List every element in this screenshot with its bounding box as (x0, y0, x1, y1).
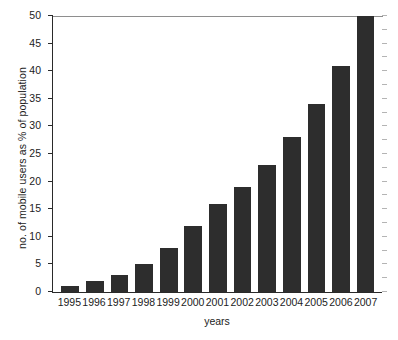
x-axis-tick-label: 2003 (255, 296, 280, 308)
right-axis-tick (382, 291, 387, 292)
right-axis-tick (382, 222, 387, 223)
plot-area: 05101520253035404550 (52, 16, 382, 293)
y-axis-tick-label: 25 (29, 148, 41, 159)
x-axis-tick-label: 2002 (230, 296, 255, 308)
bar-2006 (332, 66, 350, 292)
bar-slot (206, 16, 231, 292)
bar-2004 (283, 137, 301, 292)
x-axis-tick-label: 1995 (57, 296, 82, 308)
bar-chart: no. of mobile users as % of population 0… (0, 0, 398, 340)
right-axis-tick (382, 181, 387, 182)
x-axis-tick-label: 1996 (82, 296, 107, 308)
y-axis-tick-label: 20 (29, 175, 41, 186)
bar-slot (255, 16, 280, 292)
bar-2007 (357, 16, 375, 292)
right-axis-tick (382, 29, 387, 30)
bar-slot (107, 16, 132, 292)
bar-2005 (308, 104, 326, 292)
x-axis-tick-label: 2004 (279, 296, 304, 308)
x-axis-tick-label: 2005 (304, 296, 329, 308)
right-axis-tick (382, 167, 387, 168)
x-axis-tick-label: 1999 (156, 296, 181, 308)
right-axis-tick (382, 56, 387, 57)
right-axis-tick (382, 112, 387, 113)
x-axis-tick-label: 1998 (131, 296, 156, 308)
right-axis-tick (382, 43, 387, 44)
right-axis-tick (382, 98, 387, 99)
bar-1998 (135, 264, 153, 292)
right-axis-tick (382, 153, 387, 154)
y-axis-tick-label: 30 (29, 120, 41, 131)
y-axis-tick-label: 15 (29, 203, 41, 214)
right-axis-tick (382, 208, 387, 209)
y-axis-tick-label: 0 (35, 286, 41, 297)
y-axis-tick-label: 5 (35, 258, 41, 269)
right-axis-tick (382, 139, 387, 140)
bar-slot (58, 16, 83, 292)
bar-slot (156, 16, 181, 292)
right-axis-tick (382, 70, 387, 71)
x-axis-tick-label: 2006 (329, 296, 354, 308)
bar-slot (279, 16, 304, 292)
x-axis-tick-label: 2000 (180, 296, 205, 308)
y-axis-tick-label: 10 (29, 231, 41, 242)
bar-2003 (258, 165, 276, 292)
bar-slot (329, 16, 354, 292)
bar-2000 (184, 226, 202, 292)
bar-1996 (86, 281, 104, 292)
x-axis-title: years (52, 315, 382, 327)
right-axis-tick (382, 277, 387, 278)
y-axis-title: no. of mobile users as % of population (16, 33, 28, 283)
right-axis-tick (382, 84, 387, 85)
x-axis-tick-labels: 1995199619971998199920002001200220032004… (52, 296, 382, 308)
bar-1997 (111, 275, 129, 292)
right-axis-tick (382, 194, 387, 195)
right-axis-tick (382, 263, 387, 264)
bar-series (53, 16, 382, 292)
bar-slot (353, 16, 378, 292)
y-axis-tick-label: 35 (29, 93, 41, 104)
bar-1995 (61, 286, 79, 292)
y-axis-tick-label: 50 (29, 10, 41, 21)
right-axis-tick (382, 15, 387, 16)
right-axis-tick (382, 125, 387, 126)
bar-slot (83, 16, 108, 292)
x-axis-tick-label: 1997 (106, 296, 131, 308)
y-axis-tick-label: 45 (29, 37, 41, 48)
right-axis-tick (382, 250, 387, 251)
bar-slot (132, 16, 157, 292)
bar-2002 (234, 187, 252, 292)
bar-slot (181, 16, 206, 292)
bar-slot (230, 16, 255, 292)
x-axis-tick-label: 2001 (205, 296, 230, 308)
bar-1999 (160, 248, 178, 292)
x-axis-tick-label: 2007 (353, 296, 378, 308)
bar-slot (304, 16, 329, 292)
bar-2001 (209, 204, 227, 292)
y-axis-tick-label: 40 (29, 65, 41, 76)
right-axis-tick (382, 236, 387, 237)
